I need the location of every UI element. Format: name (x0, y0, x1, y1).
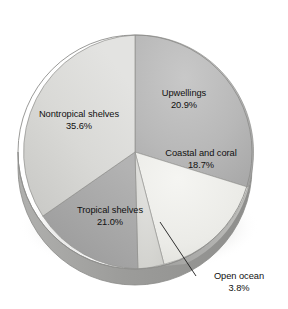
pie-chart-figure: Upwellings 20.9% Coastal and coral 18.7%… (0, 0, 288, 309)
pie-chart-graphic (0, 0, 288, 309)
